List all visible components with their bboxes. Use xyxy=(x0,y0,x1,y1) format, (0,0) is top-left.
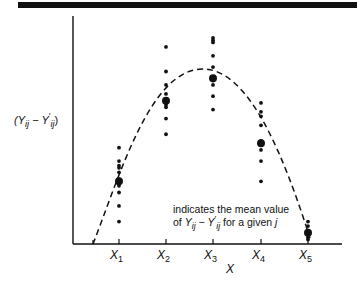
data-point xyxy=(164,92,168,96)
data-point xyxy=(259,123,263,127)
data-point xyxy=(259,114,263,118)
data-point xyxy=(259,148,263,152)
data-point xyxy=(164,105,168,109)
x-tick-label-5: X5 xyxy=(299,248,312,262)
data-point xyxy=(211,94,215,98)
data-point xyxy=(117,146,121,150)
x-tick-label-4: X4 xyxy=(252,248,265,262)
x-tick-label-3: X3 xyxy=(204,248,217,262)
data-point xyxy=(117,204,121,208)
data-point xyxy=(259,179,263,183)
data-point xyxy=(306,224,310,228)
data-point xyxy=(306,238,310,242)
mean-point-x3 xyxy=(209,74,217,82)
data-point xyxy=(164,45,168,49)
annotation-line-2: of Yij − Y′ij for a given j xyxy=(173,216,289,229)
data-point xyxy=(164,83,168,87)
data-point xyxy=(117,220,121,224)
data-point xyxy=(211,41,215,45)
data-point xyxy=(211,65,215,69)
data-point xyxy=(117,166,121,170)
data-point xyxy=(117,159,121,163)
data-point xyxy=(306,220,310,224)
data-point xyxy=(117,191,121,195)
x-axis-label: X xyxy=(226,262,234,276)
data-point xyxy=(259,101,263,105)
data-point xyxy=(211,54,215,58)
mean-annotation: indicates the mean value of Yij − Y′ij f… xyxy=(173,203,289,229)
data-point xyxy=(117,170,121,174)
mean-point-x4 xyxy=(257,139,265,147)
x-tick-label-2: X2 xyxy=(157,248,170,262)
data-point xyxy=(164,117,168,121)
x-ticks xyxy=(93,239,308,244)
data-point xyxy=(259,110,263,114)
mean-point-x1 xyxy=(115,177,123,185)
data-point xyxy=(164,70,168,74)
y-axis-label: (Yij − Y′ij) xyxy=(14,114,58,126)
data-point xyxy=(211,83,215,87)
data-point xyxy=(259,159,263,163)
mean-point-x2 xyxy=(162,97,170,105)
x-tick-label-1: X1 xyxy=(110,248,123,262)
mean-point-x5 xyxy=(304,229,312,237)
data-point xyxy=(211,108,215,112)
data-point xyxy=(164,132,168,136)
annotation-line-1: indicates the mean value xyxy=(173,203,289,216)
